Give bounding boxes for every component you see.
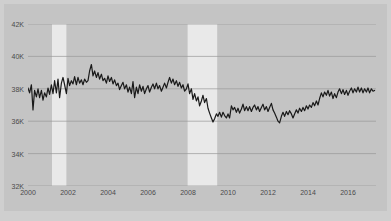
recession-band [188,24,218,186]
x-tick-label: 2016 [340,189,356,196]
x-tick-label: 2002 [60,189,76,196]
chart-figure: 32K34K36K38K40K42K 200020022004200620082… [0,0,391,221]
y-tick-label: 36K [12,118,24,125]
x-tick-label: 2006 [140,189,156,196]
y-tick-label: 42K [12,21,24,28]
x-tick-label: 2000 [20,189,36,196]
plot-area: 32K34K36K38K40K42K 200020022004200620082… [28,24,376,186]
chart-svg [28,24,376,186]
x-tick-label: 2014 [300,189,316,196]
y-tick-label: 34K [12,150,24,157]
x-tick-label: 2010 [220,189,236,196]
recession-band [52,24,66,186]
y-tick-label: 38K [12,85,24,92]
y-tick-label: 40K [12,53,24,60]
x-tick-label: 2004 [100,189,116,196]
x-tick-label: 2012 [260,189,276,196]
x-tick-label: 2008 [180,189,196,196]
